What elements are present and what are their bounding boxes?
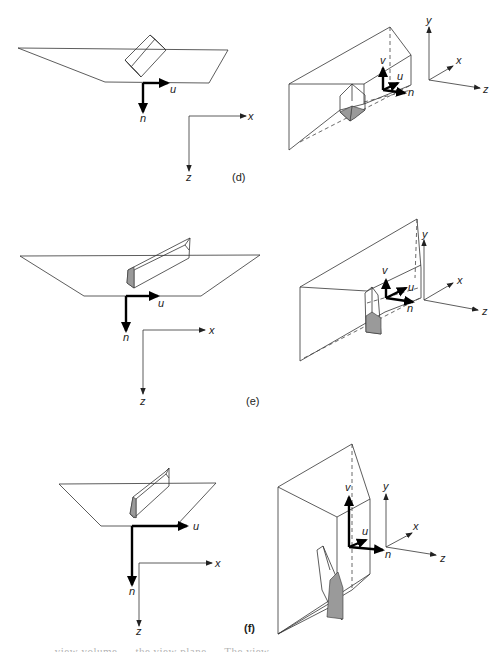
- y-label: y: [425, 14, 433, 26]
- z-label: z: [135, 625, 142, 637]
- n-label: n: [123, 331, 129, 343]
- panel-caption: (f): [244, 622, 255, 634]
- figure-canvas: u n x z (d) v u n: [0, 0, 502, 652]
- panel-e-top-view: u n x z (e): [20, 238, 260, 407]
- z-axis-arrow-icon: [424, 300, 478, 310]
- cut-off-body-text: … view volume … the view plane … The vie…: [0, 642, 502, 652]
- x-axis-arrow-icon: [429, 66, 453, 80]
- n-axis-arrow-icon: [349, 547, 383, 550]
- z-label: z: [439, 552, 446, 564]
- u-label: u: [193, 520, 199, 532]
- z-label: z: [139, 395, 146, 407]
- u-label: u: [170, 83, 176, 95]
- view-volume-outline: [278, 444, 370, 634]
- object-box: [340, 84, 365, 121]
- footer-text: … view volume … the view plane … The vie…: [40, 645, 502, 652]
- panel-caption: (e): [246, 395, 259, 407]
- u-label: u: [408, 281, 414, 293]
- u-axis-arrow-icon: [386, 288, 406, 298]
- z-label: z: [481, 305, 488, 317]
- n-label: n: [129, 585, 135, 597]
- panel-f-3d-view: v u n y x z: [278, 444, 446, 634]
- panel-e-3d-view: v u n y x z: [300, 219, 488, 361]
- x-axis-arrow-icon: [424, 283, 453, 300]
- v-label: v: [382, 264, 389, 276]
- x-label: x: [456, 274, 463, 286]
- panel-f-top-view: u n x z (f): [59, 468, 255, 637]
- panel-d-top-view: u n x z (d): [18, 35, 254, 183]
- x-label: x: [208, 324, 215, 336]
- u-label: u: [362, 525, 368, 537]
- object-prism: [127, 238, 190, 288]
- v-label: v: [345, 481, 352, 493]
- y-label: y: [421, 228, 429, 240]
- u-label: u: [397, 70, 403, 82]
- view-plane-outline: [20, 255, 260, 296]
- z-label: z: [185, 171, 192, 183]
- object-box: [125, 35, 166, 77]
- n-axis-arrow-icon: [383, 90, 405, 93]
- u-axis-arrow-icon: [383, 83, 398, 90]
- v-label: v: [380, 54, 387, 66]
- y-label: y: [382, 480, 390, 492]
- view-plane-outline: [18, 48, 228, 83]
- n-label: n: [407, 302, 413, 314]
- z-label: z: [482, 83, 489, 95]
- z-axis-arrow-icon: [386, 547, 436, 555]
- panel-f: u n x z (f) v u n: [59, 444, 446, 637]
- panel-caption: (d): [232, 171, 245, 183]
- x-axis-arrow-icon: [386, 533, 412, 547]
- z-axis-arrow-icon: [429, 80, 480, 88]
- object-prism: [130, 468, 169, 518]
- u-axis-arrow-icon: [349, 540, 366, 547]
- x-label: x: [214, 557, 221, 569]
- panel-d-3d-view: v u n y x z: [289, 14, 489, 150]
- panel-d: u n x z (d) v u n: [18, 14, 489, 183]
- x-label: x: [412, 520, 419, 532]
- x-label: x: [455, 54, 462, 66]
- view-volume-outline: [289, 27, 411, 150]
- n-label: n: [140, 112, 146, 124]
- object-prism: [365, 287, 381, 334]
- n-label: n: [408, 86, 414, 98]
- u-label: u: [158, 297, 164, 309]
- x-label: x: [247, 110, 254, 122]
- n-label: n: [385, 548, 391, 560]
- panel-e: u n x z (e) v u n y: [20, 219, 488, 407]
